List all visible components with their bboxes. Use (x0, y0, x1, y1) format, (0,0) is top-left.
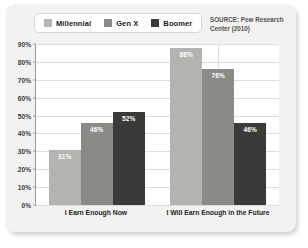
bar-group-i-will-earn-enough-in-the-future: 88% 76% 46% (158, 44, 280, 205)
y-tick-label: 90% (18, 41, 31, 48)
source-note: SOURCE: Pew Research Center (2010) (210, 15, 296, 33)
bar-groups: 31% 46% 52% (36, 44, 279, 205)
bar-wrap: 88% (170, 44, 202, 205)
bar-value-millennial-now: 31% (58, 153, 72, 160)
bar-boomer-future[interactable]: 46% (234, 123, 266, 205)
plot-area: 0%10%20%30%40%50%60%70%80%90% 31% 46% (36, 44, 279, 205)
bar-wrap: 52% (113, 44, 145, 205)
bar-wrap: 46% (234, 44, 266, 205)
legend-entry-millennial: Millennial (44, 19, 91, 28)
legend-label-boomer: Boomer (163, 19, 192, 28)
bar-wrap: 76% (202, 44, 234, 205)
y-tick-label: 10% (18, 184, 31, 191)
legend-label-millennial: Millennial (56, 19, 91, 28)
legend-label-gen-x: Gen X (116, 19, 138, 28)
legend-swatch-boomer (151, 19, 159, 27)
bar-value-gen-x-future: 76% (212, 72, 226, 79)
chart-legend: Millennial Gen X Boomer (34, 13, 202, 33)
bar-gen-x-now[interactable]: 46% (81, 123, 113, 205)
category-label-future: I Will Earn Enough in the Future (157, 209, 279, 216)
bar-wrap: 31% (49, 44, 81, 205)
plot-frame: 0%10%20%30%40%50%60%70%80%90% 31% 46% (35, 44, 279, 206)
y-tick-label: 20% (18, 166, 31, 173)
y-tick-label: 70% (18, 76, 31, 83)
y-tick-label: 30% (18, 148, 31, 155)
bar-value-boomer-now: 52% (122, 115, 136, 122)
bar-millennial-now[interactable]: 31% (49, 150, 81, 205)
bar-boomer-now[interactable]: 52% (113, 112, 145, 205)
y-tick-label: 80% (18, 58, 31, 65)
y-tick-label: 40% (18, 130, 31, 137)
y-tick-label: 0% (21, 202, 31, 209)
gridline (36, 205, 279, 206)
bar-value-gen-x-now: 46% (90, 126, 104, 133)
chart-figure: Millennial Gen X Boomer SOURCE: Pew Rese… (0, 0, 308, 248)
category-label-now: I Earn Enough Now (35, 209, 157, 216)
bar-gen-x-future[interactable]: 76% (202, 69, 234, 205)
bar-millennial-future[interactable]: 88% (170, 48, 202, 205)
legend-swatch-millennial (44, 19, 52, 27)
legend-entry-gen-x: Gen X (104, 19, 138, 28)
bar-value-millennial-future: 88% (180, 51, 194, 58)
bar-value-boomer-future: 46% (244, 126, 258, 133)
y-tick-label: 60% (18, 94, 31, 101)
category-axis-labels: I Earn Enough Now I Will Earn Enough in … (35, 209, 279, 216)
legend-swatch-gen-x (104, 19, 112, 27)
legend-entry-boomer: Boomer (151, 19, 192, 28)
y-tick-label: 50% (18, 112, 31, 119)
bar-wrap: 46% (81, 44, 113, 205)
bar-group-i-earn-enough-now: 31% 46% 52% (36, 44, 158, 205)
